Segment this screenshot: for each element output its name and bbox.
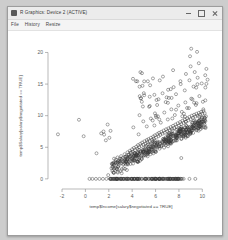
x-tick-label: -2 — [60, 193, 65, 199]
x-axis-title: temp$Income[salary$negotiated == TRUE] — [89, 204, 172, 209]
scatter-plot: 05101520-20246810temp$Income[salary$nego… — [8, 31, 222, 235]
menu-item-resize[interactable]: Resize — [46, 20, 61, 30]
x-tick-label: 6 — [154, 193, 157, 199]
x-tick-label: 10 — [200, 193, 206, 199]
y-tick-label: 5 — [40, 144, 43, 150]
desktop-background: R Graphics: Device 2 (ACTIVE) File Histo… — [0, 0, 228, 240]
y-tick-label: 20 — [37, 49, 43, 55]
maximize-button[interactable] — [195, 8, 208, 19]
r-graphics-window: R Graphics: Device 2 (ACTIVE) File Histo… — [7, 6, 223, 236]
r-graphics-icon — [11, 10, 17, 16]
x-tick-label: 2 — [107, 193, 110, 199]
close-button[interactable] — [208, 8, 221, 19]
x-tick-label: 8 — [178, 193, 181, 199]
menu-item-history[interactable]: History — [25, 20, 40, 30]
menubar: File History Resize — [8, 20, 222, 31]
plot-canvas: 05101520-20246810temp$Income[salary$nego… — [8, 31, 222, 235]
x-tick-label: 0 — [84, 193, 87, 199]
y-tick-label: 15 — [37, 81, 43, 87]
x-tick-label: 4 — [131, 193, 134, 199]
window-title: R Graphics: Device 2 (ACTIVE) — [20, 7, 182, 19]
y-axis-title: temp$Salary[salary$negotiated == TRUE] — [18, 75, 23, 156]
window-controls — [182, 8, 221, 19]
y-tick-label: 0 — [40, 176, 43, 182]
data-points — [56, 47, 209, 180]
window-titlebar[interactable]: R Graphics: Device 2 (ACTIVE) — [8, 7, 222, 20]
menu-item-file[interactable]: File — [11, 20, 19, 30]
y-tick-label: 10 — [37, 112, 43, 118]
minimize-button[interactable] — [182, 8, 195, 19]
